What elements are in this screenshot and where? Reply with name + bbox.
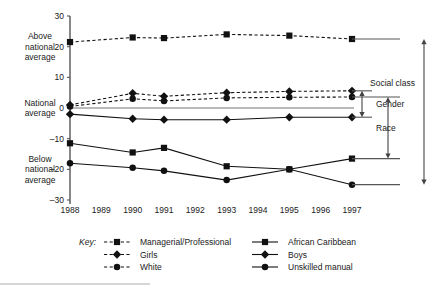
legend-swatch-marker-1-1	[261, 250, 269, 258]
chart-figure: 3020100–10–20–30AbovenationalaverageNati…	[0, 0, 437, 286]
series-marker-african-caribbean-1991	[161, 145, 167, 151]
y-tick-label--30: –30	[50, 195, 64, 205]
series-marker-african-caribbean-1990	[130, 149, 136, 155]
x-tick-label-1992: 1992	[186, 205, 205, 215]
series-marker-managerial-professional-1991	[161, 35, 167, 41]
x-tick-label-1991: 1991	[155, 205, 174, 215]
region-label-1-line-1: average	[25, 108, 56, 118]
legend-label-girls: Girls	[140, 250, 157, 260]
legend-swatch-marker-1-2	[262, 264, 269, 271]
series-line-unskilled-manual	[70, 163, 352, 185]
legend-swatch-marker-0-1	[113, 250, 121, 258]
series-marker-managerial-professional-1990	[130, 34, 136, 40]
x-tick-label-1989: 1989	[92, 205, 111, 215]
series-marker-unskilled-manual-1993	[223, 177, 230, 184]
series-marker-managerial-professional-1993	[224, 31, 230, 37]
series-marker-unskilled-manual-1988	[67, 160, 74, 167]
legend-label-boys: Boys	[288, 250, 307, 260]
legend-key-label: Key:	[79, 237, 97, 247]
legend-swatch-marker-0-0	[114, 239, 120, 245]
annotation-arrowhead-bottom-0	[421, 179, 426, 184]
series-marker-boys-1990	[128, 115, 136, 123]
region-label-2-line-2: average	[25, 175, 56, 185]
legend-label-white: White	[140, 262, 162, 272]
y-tick-label--10: –10	[50, 134, 64, 144]
series-marker-white-1988	[67, 103, 74, 110]
region-label-0-line-1: national	[25, 42, 55, 52]
region-label-2-line-1: national	[25, 164, 55, 174]
series-marker-managerial-professional-1995	[286, 33, 292, 39]
series-marker-white-1995	[286, 94, 293, 101]
series-marker-boys-1988	[66, 110, 74, 118]
x-tick-label-1994: 1994	[249, 205, 268, 215]
annotation-arrowhead-bottom-1	[359, 112, 364, 117]
x-tick-label-1997: 1997	[343, 205, 362, 215]
series-marker-unskilled-manual-1991	[161, 168, 168, 175]
annotation-arrowhead-top-1	[359, 91, 364, 96]
series-marker-unskilled-manual-1990	[129, 165, 136, 172]
x-tick-label-1993: 1993	[217, 205, 236, 215]
series-line-girls	[70, 91, 352, 105]
annotation-label-gender: Gender	[376, 99, 405, 109]
series-marker-white-1991	[161, 98, 168, 105]
region-label-1-line-0: National	[24, 98, 55, 108]
annotation-arrowhead-top-0	[421, 39, 426, 44]
region-label-0-line-0: Above	[28, 31, 52, 41]
series-marker-white-1993	[223, 95, 230, 102]
legend-swatch-marker-0-2	[114, 264, 121, 271]
series-line-white	[70, 97, 352, 107]
annotation-arrowhead-bottom-2	[385, 153, 390, 158]
series-marker-white-1990	[129, 96, 136, 103]
legend-label-managerial-professional: Managerial/Professional	[140, 237, 231, 247]
annotation-label-race: Race	[376, 123, 396, 133]
legend-label-african-caribbean: African Caribbean	[288, 237, 356, 247]
annotation-label-social-class: Social class	[370, 78, 415, 88]
y-tick-label-30: 30	[55, 11, 65, 21]
y-tick-label-0: 0	[59, 103, 64, 113]
series-marker-african-caribbean-1988	[67, 140, 73, 146]
x-tick-label-1990: 1990	[123, 205, 142, 215]
legend-label-unskilled-manual: Unskilled manual	[288, 262, 353, 272]
series-marker-unskilled-manual-1995	[286, 166, 293, 173]
series-marker-boys-1995	[285, 113, 293, 121]
legend-swatch-marker-1-0	[262, 239, 268, 245]
y-tick-label-20: 20	[55, 42, 65, 52]
x-tick-label-1988: 1988	[61, 205, 80, 215]
series-line-managerial-professional	[70, 34, 352, 42]
y-tick-label-10: 10	[55, 72, 65, 82]
series-marker-boys-1991	[160, 115, 168, 123]
x-tick-label-1996: 1996	[311, 205, 330, 215]
line-chart-canvas: 3020100–10–20–30AbovenationalaverageNati…	[0, 0, 437, 286]
series-marker-managerial-professional-1988	[67, 39, 73, 45]
series-line-african-caribbean	[70, 143, 352, 169]
series-marker-african-caribbean-1993	[224, 163, 230, 169]
region-label-2-line-0: Below	[28, 154, 52, 164]
series-line-boys	[70, 114, 352, 120]
x-tick-label-1995: 1995	[280, 205, 299, 215]
series-marker-boys-1993	[222, 115, 230, 123]
region-label-0-line-2: average	[25, 52, 56, 62]
